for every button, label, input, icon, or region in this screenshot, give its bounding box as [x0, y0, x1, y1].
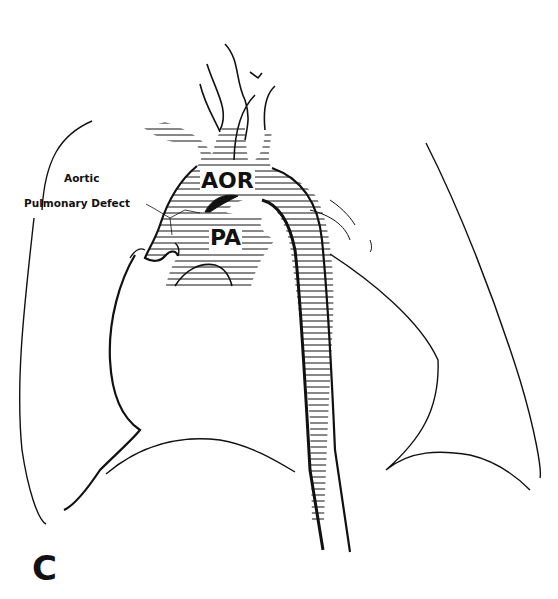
heart-left-border — [64, 255, 140, 510]
panel-letter: C — [32, 548, 57, 588]
annotation-aortic: Aortic — [64, 172, 99, 184]
right-lung-outline — [426, 143, 540, 478]
heart-right-border — [330, 254, 530, 490]
aorta-label: AOR — [200, 169, 255, 193]
chest-diagram — [0, 0, 558, 599]
annotation-pulmonary-defect: Pulmonary Defect — [24, 197, 130, 209]
diaphragm-left — [106, 439, 295, 474]
pulmonary-artery-label: PA — [209, 226, 242, 250]
